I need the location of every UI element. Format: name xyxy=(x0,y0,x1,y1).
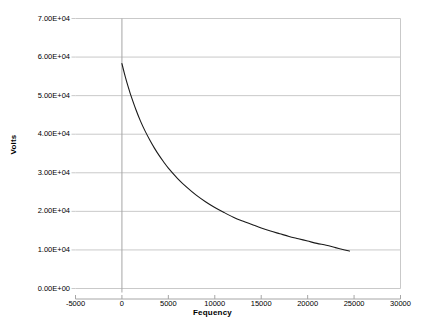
x-axis-tick-label: 30000 xyxy=(371,299,425,308)
chart-container: 0.00E+001.00E+042.00E+043.00E+044.00E+04… xyxy=(0,0,425,323)
x-axis-tick-labels: -5000050001000015000200002500030000 xyxy=(0,0,425,323)
x-axis-title: Fequency xyxy=(0,308,425,317)
y-axis-title-wrapper: Volts xyxy=(2,0,24,323)
y-axis-title: Volts xyxy=(9,121,18,169)
